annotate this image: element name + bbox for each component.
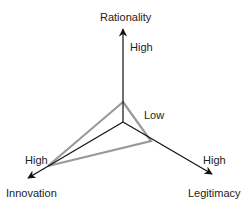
radar-diagram — [0, 0, 252, 208]
profile-triangle — [48, 102, 151, 166]
innovation-label: Innovation — [6, 188, 57, 199]
innovation-axis — [28, 122, 123, 178]
legitimacy-axis — [123, 122, 212, 174]
legitimacy-high-label: High — [203, 155, 226, 166]
legitimacy-label: Legitimacy — [188, 188, 241, 199]
rationality-label: Rationality — [100, 12, 151, 23]
innovation-high-label: High — [25, 155, 48, 166]
center-low-label: Low — [144, 110, 164, 121]
rationality-high-label: High — [130, 42, 153, 53]
